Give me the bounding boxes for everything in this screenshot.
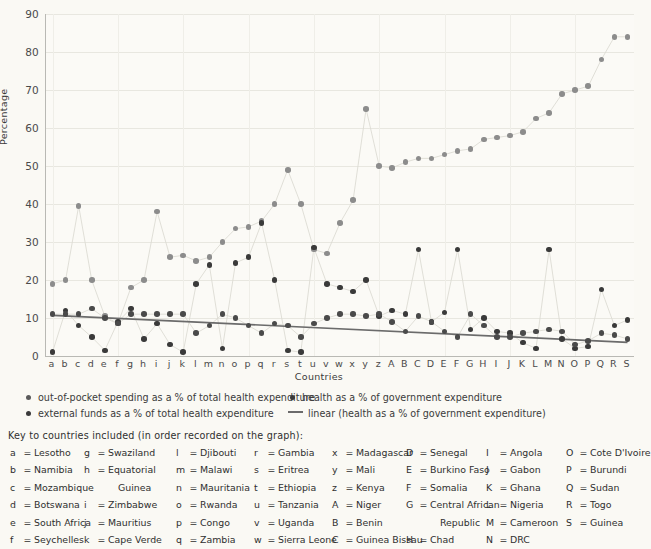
data-point	[625, 336, 631, 342]
country-key-code: f	[10, 531, 21, 548]
data-point	[324, 281, 330, 287]
country-key-row: O=Cote D'Ivoire	[566, 444, 651, 461]
x-axis-tick-label: O	[567, 358, 581, 369]
country-key-equals: =	[21, 531, 34, 548]
data-point	[599, 330, 605, 336]
data-point	[507, 334, 513, 340]
data-point	[180, 253, 186, 259]
country-key-equals: =	[21, 514, 34, 531]
x-axis-tick-label: P	[580, 358, 594, 369]
data-point	[350, 311, 356, 317]
country-key-row: u=Tanzania	[254, 496, 337, 513]
country-key-name: South Africa	[34, 514, 91, 531]
country-key-name: Sudan	[590, 479, 620, 496]
x-axis-tick-label: A	[384, 358, 398, 369]
country-key-equals: =	[95, 531, 108, 548]
data-point	[546, 110, 552, 116]
data-point	[481, 323, 487, 329]
x-axis-tick-label: F	[450, 358, 464, 369]
country-key-code: c	[10, 479, 21, 496]
data-point	[141, 336, 147, 342]
country-key-code: O	[566, 444, 577, 461]
x-axis-tick-label: m	[201, 358, 215, 369]
x-axis-tick-label: v	[319, 358, 333, 369]
country-key-name: Kenya	[356, 479, 385, 496]
country-key-name: Namibia	[34, 461, 73, 478]
country-key-name: Djibouti	[200, 444, 236, 461]
x-axis-tick-label: d	[84, 358, 98, 369]
x-axis-tick-label: o	[227, 358, 241, 369]
country-key-row: =Guinea	[84, 479, 162, 496]
x-axis-tick-label: t	[293, 358, 307, 369]
x-axis-tick-label: k	[175, 358, 189, 369]
country-key: Key to countries included (in order reco…	[6, 430, 636, 549]
y-axis-tick-label: 20	[5, 274, 39, 286]
x-axis-tick-label: I	[489, 358, 503, 369]
x-axis-tick-label: R	[606, 358, 620, 369]
x-axis-tick-label: h	[136, 358, 150, 369]
legend-item-label: external funds as a % of total health ex…	[38, 408, 274, 419]
country-key-name: Cameroon	[510, 514, 558, 531]
country-key-name: Angola	[510, 444, 542, 461]
y-axis-tick-label: 40	[5, 198, 39, 210]
country-key-equals: =	[187, 461, 200, 478]
data-point	[363, 313, 369, 319]
data-point	[520, 129, 526, 135]
data-point	[533, 346, 539, 352]
data-point	[220, 239, 226, 245]
country-key-code: v	[254, 514, 265, 531]
country-key-row: I=Angola	[486, 444, 558, 461]
country-key-code: d	[10, 496, 21, 513]
country-key-equals: =	[21, 479, 34, 496]
country-key-name: Gabon	[510, 461, 541, 478]
country-key-equals: =	[21, 496, 34, 513]
country-key-equals: =	[497, 461, 510, 478]
country-key-row: R=Togo	[566, 496, 651, 513]
trend-line-path	[53, 315, 628, 342]
country-key-name: Tanzania	[278, 496, 319, 513]
legend-item: linear (health as a % of government expe…	[288, 408, 546, 419]
country-key-row: f=Seychelles	[10, 531, 94, 548]
x-axis-tick-label: H	[476, 358, 490, 369]
data-point	[507, 133, 513, 139]
data-point	[625, 34, 631, 40]
country-key-code: n	[176, 479, 187, 496]
country-key-name: Burkino Faso	[430, 461, 490, 478]
country-key-code: q	[176, 531, 187, 548]
country-key-code: u	[254, 496, 265, 513]
country-key-row: v=Uganda	[254, 514, 337, 531]
data-point	[298, 201, 304, 207]
country-key-name: Rwanda	[200, 496, 238, 513]
country-key-equals: =	[21, 461, 34, 478]
data-point	[363, 106, 369, 112]
data-point	[585, 83, 591, 89]
country-key-code: a	[10, 444, 21, 461]
data-point	[429, 319, 435, 325]
country-key-code: D	[406, 444, 417, 461]
data-point	[350, 197, 356, 203]
country-key-code: o	[176, 496, 187, 513]
data-point	[559, 329, 565, 335]
country-key-name: Cape Verde	[108, 531, 162, 548]
chart-container: Percentage 0102030405060708090 abcdefghi…	[0, 0, 638, 390]
country-key-code: l	[176, 444, 187, 461]
data-point	[207, 262, 213, 268]
country-key-name: Ghana	[510, 479, 541, 496]
y-axis-tick-label: 10	[5, 312, 39, 324]
country-key-name: Senegal	[430, 444, 468, 461]
legend-dot-marker	[290, 395, 295, 400]
country-key-row: a=Lesotho	[10, 444, 94, 461]
country-key-name: Congo	[200, 514, 230, 531]
country-key-row: k=Cape Verde	[84, 531, 162, 548]
data-point	[403, 159, 409, 165]
country-key-equals: =	[21, 444, 34, 461]
country-key-equals: =	[577, 461, 590, 478]
country-key-row: q=Zambia	[176, 531, 250, 548]
country-key-code: S	[566, 514, 577, 531]
country-key-name: Ethiopia	[278, 479, 316, 496]
country-key-row: L=Nigeria	[486, 496, 558, 513]
country-key-equals: =	[95, 496, 108, 513]
data-point	[403, 311, 409, 317]
country-key-row: l=Djibouti	[176, 444, 250, 461]
country-key-equals: =	[577, 496, 590, 513]
